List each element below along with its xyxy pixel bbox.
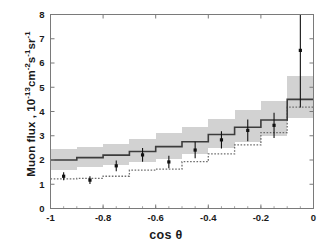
- figure-container: -1-0.8-0.6-0.4-0.20012345678 Muon flux ,…: [0, 0, 332, 250]
- y-axis-exp-1: -13: [23, 87, 32, 99]
- x-axis-label-prefix: cos: [149, 228, 175, 242]
- x-tick-label: -0.8: [95, 212, 111, 223]
- y-axis-mid-2: s: [25, 57, 37, 64]
- y-tick-label: 0: [39, 203, 44, 214]
- y-axis-exp-4: -1: [23, 31, 32, 38]
- y-axis-mid-3: sr: [25, 38, 37, 49]
- x-axis-label-symbol: θ: [176, 228, 183, 242]
- muon-flux-chart: -1-0.8-0.6-0.4-0.20012345678: [0, 0, 332, 250]
- x-tick-label: 0: [311, 212, 316, 223]
- x-axis-label: cos θ: [0, 228, 332, 242]
- x-tick-label: -1: [46, 212, 55, 223]
- x-tick-label: -0.6: [148, 212, 164, 223]
- x-tick-label: -0.2: [253, 212, 269, 223]
- y-axis-mid-1: cm: [25, 70, 37, 87]
- y-axis-exp-2: -2: [23, 63, 32, 70]
- y-axis-label-text: Muon flux , 10: [25, 99, 37, 177]
- y-axis-exp-3: -1: [23, 49, 32, 56]
- x-tick-label: -0.4: [200, 212, 217, 223]
- y-axis-label: Muon flux , 10-13cm-2s-1sr-1: [21, 9, 41, 199]
